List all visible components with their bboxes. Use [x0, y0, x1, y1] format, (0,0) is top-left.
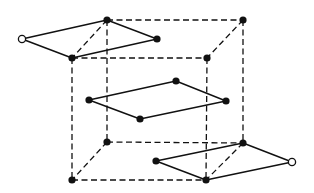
filled-point-cube-bottom-front-left — [68, 176, 75, 183]
filled-point-cube-top-front-right — [203, 54, 210, 61]
solid-edge-mid-left-to-mid-top — [89, 81, 176, 100]
solid-edge-mid-bottom-to-mid-left — [89, 100, 140, 119]
filled-point-cube-top-front-left — [68, 54, 75, 61]
filled-point-mid-right — [222, 97, 229, 104]
dashed-edge-cube-bottom-back-right-to-cube-bottom-front-right — [206, 143, 243, 180]
filled-point-cube-bottom-front-right — [202, 176, 209, 183]
filled-point-cube-bottom-back-right — [239, 139, 246, 146]
cube-lattice-diagram — [0, 0, 314, 193]
solid-edge-bottom-left-to-cube-bottom-back-right — [156, 143, 243, 161]
dashed-edge-cube-top-back-left-to-cube-top-front-left — [72, 20, 107, 58]
cube-dashed-edges — [72, 20, 243, 180]
filled-point-cube-top-back-left — [103, 16, 110, 23]
solid-edge-mid-top-to-mid-right — [176, 81, 226, 101]
dashed-edge-cube-top-front-right-to-cube-bottom-front-right — [206, 58, 207, 180]
solid-edge-cube-top-back-left-to-top-right — [107, 20, 157, 39]
filled-point-bottom-left — [152, 157, 159, 164]
filled-point-mid-left — [85, 96, 92, 103]
solid-edge-cube-bottom-back-right-to-bottom-right-open — [243, 143, 292, 162]
solid-edge-top-right-to-cube-top-front-left — [72, 39, 157, 58]
solid-edge-cube-bottom-front-right-to-bottom-left — [156, 161, 206, 180]
solid-edge-top-left-open-to-cube-top-back-left — [22, 20, 107, 39]
lattice-points — [18, 16, 295, 183]
filled-point-mid-bottom — [136, 115, 143, 122]
filled-point-cube-top-back-right — [239, 16, 246, 23]
open-point-bottom-right-open — [288, 158, 295, 165]
solid-edge-mid-right-to-mid-bottom — [140, 101, 226, 119]
filled-point-mid-top — [172, 77, 179, 84]
filled-point-top-right — [153, 35, 160, 42]
parallelogram-solid-edges — [22, 20, 292, 180]
solid-edge-bottom-right-open-to-cube-bottom-front-right — [206, 162, 292, 180]
dashed-edge-cube-top-back-right-to-cube-top-front-right — [207, 20, 243, 58]
open-point-top-left-open — [18, 35, 25, 42]
solid-edge-cube-top-front-left-to-top-left-open — [22, 39, 72, 58]
filled-point-cube-bottom-back-left — [103, 138, 110, 145]
dashed-edge-cube-bottom-back-left-to-cube-bottom-back-right — [107, 142, 243, 143]
dashed-edge-cube-bottom-back-left-to-cube-bottom-front-left — [72, 142, 107, 180]
